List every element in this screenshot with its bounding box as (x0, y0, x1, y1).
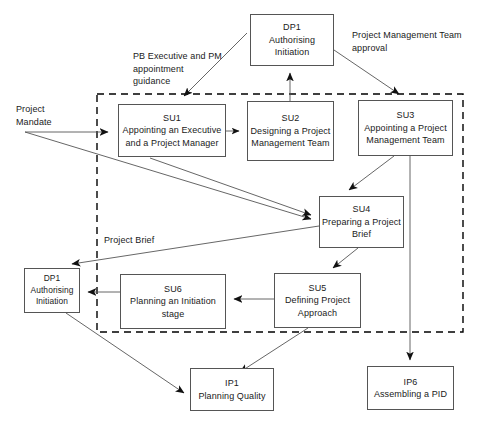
node-su4-code: SU4 (353, 203, 371, 216)
node-su4-title: Preparing a Project Brief (322, 216, 401, 241)
node-su5-title: Defining Project Approach (277, 294, 358, 319)
node-su1[interactable]: SU1 Appointing an Executive and a Projec… (118, 104, 226, 157)
node-dp1-bottom-code: DP1 (44, 273, 61, 285)
node-su3-code: SU3 (397, 109, 415, 122)
node-su6-title: Planning an Initiation stage (123, 295, 223, 320)
label-pmt-approval: Project Management Team approval (352, 29, 462, 54)
node-su5-code: SU5 (309, 282, 327, 295)
label-pb-executive-guidance: PB Executive and PM appointment guidance (133, 50, 222, 88)
edge-su1-to-su4 (150, 158, 311, 215)
node-su2-code: SU2 (282, 112, 300, 125)
edge-su5-to-ip1 (240, 328, 308, 372)
node-su6[interactable]: SU6 Planning an Initiation stage (120, 274, 226, 329)
node-ip1[interactable]: IP1 Planning Quality (190, 368, 274, 411)
edge-su3-to-su4 (349, 156, 394, 190)
node-dp1-top[interactable]: DP1 Authorising Initiation (250, 14, 334, 66)
node-su6-code: SU6 (164, 283, 182, 296)
node-su2-title: Designing a Project Management Team (250, 125, 331, 150)
node-su5[interactable]: SU5 Defining Project Approach (274, 273, 361, 328)
edge-dp1-top-to-su3 (334, 50, 399, 94)
node-dp1-bottom[interactable]: DP1 Authorising Initiation (24, 268, 80, 313)
process-flow-diagram: DP1 Authorising Initiation SU1 Appointin… (0, 0, 486, 431)
node-ip6-code: IP6 (404, 376, 418, 389)
node-ip6[interactable]: IP6 Assembling a PID (367, 366, 454, 410)
node-su3[interactable]: SU3 Appointing a Project Management Team (358, 100, 453, 156)
node-ip1-title: Planning Quality (198, 390, 265, 403)
label-project-mandate: Project Mandate (16, 103, 52, 128)
node-ip1-code: IP1 (225, 377, 239, 390)
label-project-brief: Project Brief (104, 234, 154, 247)
node-dp1-bottom-title: Authorising Initiation (27, 285, 77, 308)
edge-su4-to-su5 (333, 248, 358, 268)
node-ip6-title: Assembling a PID (374, 388, 447, 401)
node-su1-title: Appointing an Executive and a Project Ma… (121, 124, 223, 149)
node-su2[interactable]: SU2 Designing a Project Management Team (247, 101, 334, 161)
node-su4[interactable]: SU4 Preparing a Project Brief (319, 196, 404, 248)
node-su3-title: Appointing a Project Management Team (361, 122, 450, 147)
node-dp1-top-title: Authorising Initiation (253, 34, 331, 59)
node-su1-code: SU1 (163, 112, 181, 125)
node-dp1-top-code: DP1 (283, 21, 301, 34)
